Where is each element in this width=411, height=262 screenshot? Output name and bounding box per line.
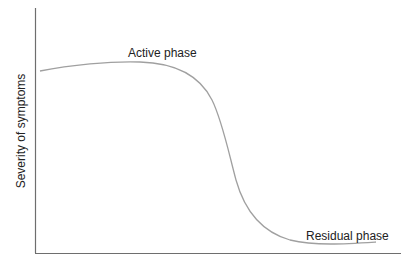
symptom-course-diagram: Active phase Residual phase Severity of … <box>0 0 411 262</box>
severity-curve <box>40 62 376 244</box>
active-phase-label: Active phase <box>128 46 197 60</box>
y-axis-label: Severity of symptoms <box>14 74 28 189</box>
residual-phase-label: Residual phase <box>306 229 389 243</box>
